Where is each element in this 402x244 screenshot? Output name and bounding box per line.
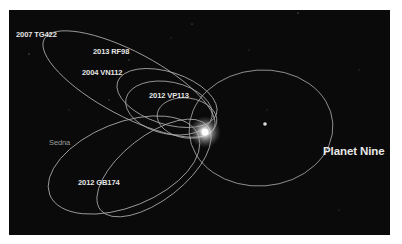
label-2007-tg422: 2007 TG422: [16, 30, 57, 39]
orbits-diagram: [9, 10, 390, 235]
label-2012-vp113: 2012 VP113: [149, 91, 189, 100]
sun: [202, 129, 209, 136]
label-2004-vn112: 2004 VN112: [82, 68, 122, 77]
orbit-sedna: [34, 96, 214, 234]
orbit-lines: [29, 11, 337, 235]
space-image: 2007 TG422 2013 RF98 2004 VN112 2012 VP1…: [9, 10, 390, 235]
label-2012-gb174: 2012 GB174: [78, 178, 120, 187]
label-sedna: Sedna: [49, 138, 70, 147]
label-2013-rf98: 2013 RF98: [93, 47, 129, 56]
planet-dot: [263, 122, 267, 126]
label-planet-nine: Planet Nine: [323, 145, 385, 157]
